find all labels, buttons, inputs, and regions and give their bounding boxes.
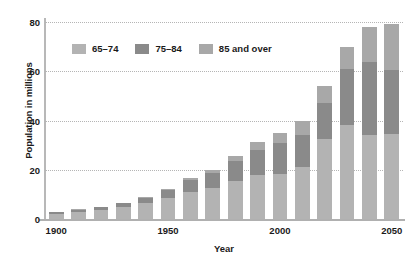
bar-segment [183, 180, 198, 192]
bar-group[interactable] [94, 207, 109, 219]
bar-segment [317, 86, 332, 102]
bar-segment [295, 167, 310, 219]
legend-label: 85 and over [219, 43, 272, 54]
bar-group[interactable] [384, 24, 399, 220]
bar-segment [250, 175, 265, 219]
bar-segment [116, 207, 131, 219]
legend-item[interactable]: 65–74 [72, 43, 118, 54]
bar-group[interactable] [49, 212, 64, 219]
bar-segment [138, 203, 153, 219]
bar-segment [205, 188, 220, 219]
bar-segment [362, 27, 377, 62]
bar-segment [362, 62, 377, 135]
bar-segment [228, 181, 243, 219]
legend-label: 65–74 [92, 43, 118, 54]
x-tick-label: 2050 [381, 225, 402, 236]
legend-swatch-icon [72, 44, 86, 54]
bar-segment [362, 135, 377, 219]
bar-group[interactable] [317, 86, 332, 219]
y-tick-label: 80 [29, 17, 40, 28]
bar-segment [295, 135, 310, 167]
bar-segment [340, 47, 355, 69]
bar-segment [340, 125, 355, 219]
bar-segment [183, 192, 198, 219]
bar-segment [317, 103, 332, 140]
legend-item[interactable]: 75–84 [135, 43, 181, 54]
legend-swatch-icon [199, 44, 213, 54]
x-tick-label: 1900 [46, 225, 67, 236]
bar-segment [317, 139, 332, 219]
bar-segment [228, 161, 243, 180]
y-tick-label: 60 [29, 66, 40, 77]
y-tick-label: 40 [29, 115, 40, 126]
chart-legend: 65–7475–8485 and over [72, 43, 272, 54]
bar-segment [384, 24, 399, 71]
x-tick-label: 1950 [157, 225, 178, 236]
bar-segment [161, 190, 176, 198]
bar-group[interactable] [273, 133, 288, 219]
bar-group[interactable] [340, 47, 355, 219]
bar-segment [340, 69, 355, 126]
legend-label: 75–84 [155, 43, 181, 54]
bar-segment [161, 198, 176, 219]
bar-segment [384, 134, 399, 219]
bar-group[interactable] [362, 27, 377, 219]
bar-segment [273, 174, 288, 219]
bar-group[interactable] [116, 203, 131, 219]
bar-segment [250, 150, 265, 175]
bar-segment [94, 210, 109, 219]
x-axis-line [39, 219, 405, 221]
bar-group[interactable] [138, 197, 153, 219]
bar-segment [250, 142, 265, 149]
bar-segment [273, 133, 288, 143]
legend-item[interactable]: 85 and over [199, 43, 272, 54]
bar-group[interactable] [250, 142, 265, 219]
bar-segment [384, 70, 399, 134]
y-tick-label: 20 [29, 164, 40, 175]
bar-segment [49, 214, 64, 219]
bar-group[interactable] [71, 209, 86, 219]
legend-swatch-icon [135, 44, 149, 54]
x-axis-title: Year [45, 243, 403, 254]
bar-group[interactable] [228, 156, 243, 219]
y-tick-label: 0 [35, 214, 40, 225]
bar-segment [71, 212, 86, 219]
bar-group[interactable] [295, 121, 310, 219]
bar-segment [205, 173, 220, 188]
bar-group[interactable] [205, 170, 220, 219]
bar-group[interactable] [183, 178, 198, 219]
population-stacked-bar-chart: Population in millions 020406080 1900195… [0, 0, 413, 271]
bar-group[interactable] [161, 189, 176, 219]
bar-segment [273, 143, 288, 174]
x-tick-label: 2000 [269, 225, 290, 236]
bar-segment [295, 121, 310, 135]
